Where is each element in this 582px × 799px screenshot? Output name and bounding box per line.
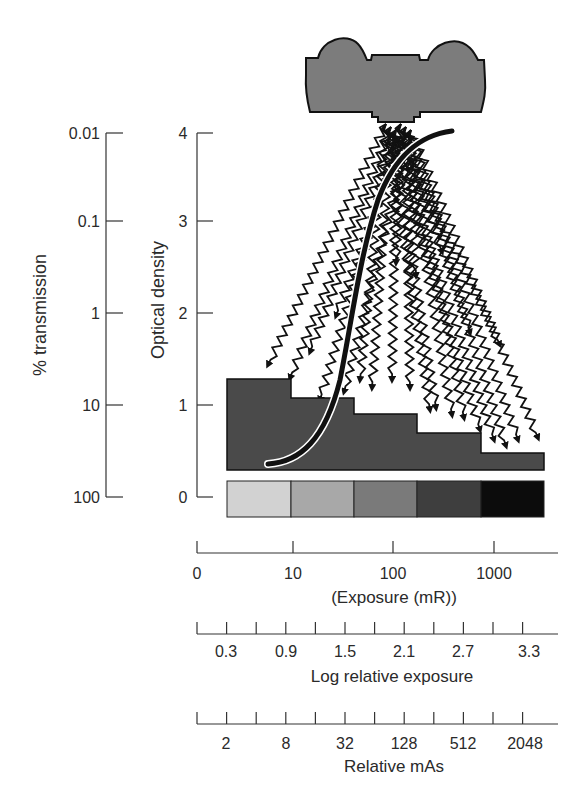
density-tick: 3: [179, 213, 188, 230]
transmission-axis: [106, 133, 123, 497]
log-exposure-tick: 2.7: [452, 643, 474, 660]
mas-tick: 2: [222, 735, 231, 752]
mas-tick: 2048: [507, 735, 543, 752]
density-tick: 2: [179, 305, 188, 322]
log-exposure-tick: 3.3: [518, 643, 540, 660]
relative-mas-axis: [197, 712, 558, 724]
density-tick: 4: [179, 125, 188, 142]
transmission-tick: 100: [73, 489, 100, 506]
density-patch-5: [481, 481, 544, 517]
transmission-tick: 10: [82, 397, 100, 414]
density-patch-4: [417, 481, 481, 517]
log-exposure-tick: 0.3: [215, 643, 237, 660]
log-exposure-axis-label: Log relative exposure: [311, 667, 474, 686]
optical-density-axis-label: Optical density: [148, 241, 168, 359]
optical-density-axis: [197, 133, 213, 497]
mas-tick: 32: [336, 735, 354, 752]
log-relative-exposure-axis: [197, 622, 558, 634]
transmission-tick: 0.1: [78, 213, 100, 230]
film-characteristic-diagram: 0.01 0.1 1 10 100 % transmission 4 3 2 1…: [0, 0, 582, 799]
log-exposure-tick: 1.5: [334, 643, 356, 660]
transmission-tick: 0.01: [69, 125, 100, 142]
mas-tick: 8: [282, 735, 291, 752]
log-exposure-tick: 0.9: [275, 643, 297, 660]
density-patch-1: [227, 481, 291, 517]
xray-tube-icon: [306, 38, 486, 122]
exposure-tick: 100: [380, 565, 407, 582]
mas-axis-label: Relative mAs: [344, 757, 444, 776]
density-patch-2: [291, 481, 354, 517]
log-exposure-tick: 2.1: [393, 643, 415, 660]
exposure-tick: 10: [284, 565, 302, 582]
density-tick: 0: [179, 489, 188, 506]
exposure-tick: 1000: [476, 565, 512, 582]
transmission-tick: 1: [91, 305, 100, 322]
mas-tick: 128: [391, 735, 418, 752]
transmission-axis-label: % transmission: [30, 254, 50, 376]
density-patch-3: [354, 481, 417, 517]
mas-tick: 512: [450, 735, 477, 752]
density-tick: 1: [179, 397, 188, 414]
exposure-tick: 0: [193, 565, 202, 582]
density-patches: [227, 481, 544, 517]
exposure-axis: [197, 541, 558, 553]
exposure-axis-label: (Exposure (mR)): [331, 588, 457, 607]
